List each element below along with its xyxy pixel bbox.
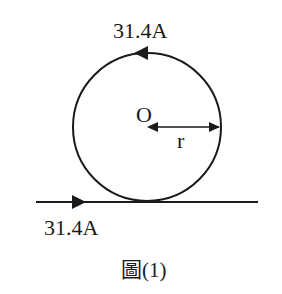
center-label: O [136, 102, 152, 127]
diagram-figure: 31.4A O r 31.4A 圖(1) [0, 0, 282, 294]
straight-wire [36, 195, 258, 209]
radius-label: r [177, 128, 185, 153]
figure-caption: 圖(1) [121, 258, 167, 282]
radius-arrow-right-icon [209, 122, 220, 132]
loop-current-label: 31.4A [113, 18, 168, 43]
wire-current-arrow-icon [72, 195, 86, 209]
wire-current-label: 31.4A [44, 215, 99, 240]
loop-current-arrow-icon [134, 46, 148, 60]
